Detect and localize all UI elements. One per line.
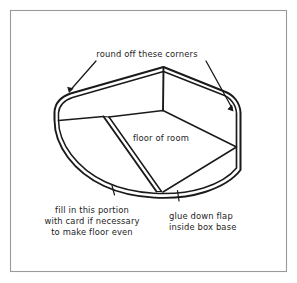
flap-strip-right-edge (109, 117, 162, 192)
tick-mark-right (178, 191, 180, 202)
flap-strip-top-edge (104, 117, 110, 118)
flap-strip-left-edge (104, 117, 157, 192)
round-off-corners-note: round off these corners (96, 49, 197, 59)
leader-line-right (206, 61, 232, 108)
box-base-illustration (55, 61, 241, 201)
figure-page: round off these corners floor of room fi… (0, 0, 297, 283)
fill-in-portion-line-2: with card if necessary (44, 216, 139, 226)
floor-of-room-label: floor of room (133, 133, 189, 143)
box-base-diagram: round off these corners floor of room fi… (0, 0, 297, 283)
glue-down-flap-line-2: inside box base (169, 222, 236, 232)
leader-line-left (71, 61, 97, 90)
fill-in-portion-line-3: to make floor even (51, 227, 133, 237)
floor-panel-front-right-edge (163, 147, 237, 192)
left-back-fold-edge (59, 117, 104, 121)
apex-vertical-fold (163, 67, 164, 111)
fill-in-portion-line-1: fill in this portion (55, 205, 129, 215)
glue-down-flap-line-1: glue down flap (169, 211, 233, 221)
